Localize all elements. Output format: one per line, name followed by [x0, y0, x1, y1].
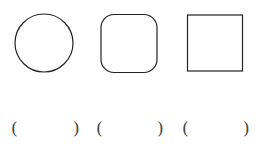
circle-shape	[15, 14, 73, 72]
square-shape	[188, 15, 243, 71]
shapes-row	[0, 0, 260, 90]
answer-2-open-paren: (	[96, 118, 103, 138]
answer-1-open-paren: (	[11, 118, 18, 138]
answer-1-close-paren: )	[73, 118, 80, 138]
answer-2-close-paren: )	[157, 118, 164, 138]
rounded-square-shape	[101, 15, 157, 73]
answer-3-open-paren: (	[182, 118, 189, 138]
answer-3-close-paren: )	[243, 118, 250, 138]
